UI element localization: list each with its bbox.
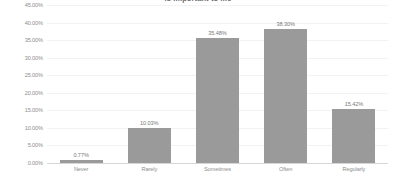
- bar[interactable]: [264, 29, 307, 163]
- y-axis-tick-label: 25.00%: [25, 72, 43, 78]
- bar[interactable]: [60, 160, 103, 163]
- bar[interactable]: [128, 128, 171, 163]
- y-axis-tick-label: 35.00%: [25, 37, 43, 43]
- y-axis-tick-label: 5.00%: [28, 142, 43, 148]
- x-axis-tick-label: Rarely: [115, 166, 183, 172]
- bar-group: 15.42%: [320, 5, 388, 163]
- y-axis-tick-label: 20.00%: [25, 90, 43, 96]
- y-axis-tick-label: 0.00%: [28, 160, 43, 166]
- x-axis-tick-label: Regularly: [320, 166, 388, 172]
- bar[interactable]: [332, 109, 375, 163]
- bar-group: 10.03%: [115, 5, 183, 163]
- y-axis-tick-label: 15.00%: [25, 107, 43, 113]
- bar-value-label: 15.42%: [345, 101, 363, 107]
- bar-group: 38.30%: [252, 5, 320, 163]
- plot-area: 0.00%5.00%10.00%15.00%20.00%25.00%30.00%…: [47, 5, 388, 163]
- y-axis-tick-label: 40.00%: [25, 20, 43, 26]
- bar[interactable]: [196, 38, 239, 163]
- y-axis-tick-label: 10.00%: [25, 125, 43, 131]
- bar-group: 35.48%: [183, 5, 251, 163]
- x-axis-labels: NeverRarelySometimesOftenRegularly: [47, 166, 388, 172]
- bar-value-label: 0.77%: [73, 152, 88, 158]
- bar-series: 0.77%10.03%35.48%38.30%15.42%: [47, 5, 388, 163]
- bar-chart: is important to me 0.00%5.00%10.00%15.00…: [0, 0, 396, 187]
- x-axis-tick-label: Never: [47, 166, 115, 172]
- bar-value-label: 35.48%: [208, 30, 226, 36]
- bar-value-label: 38.30%: [277, 21, 295, 27]
- x-axis-tick-label: Sometimes: [183, 166, 251, 172]
- gridline: [47, 163, 388, 164]
- y-axis-tick-label: 30.00%: [25, 55, 43, 61]
- y-axis-tick-label: 45.00%: [25, 2, 43, 8]
- bar-group: 0.77%: [47, 5, 115, 163]
- x-axis-tick-label: Often: [252, 166, 320, 172]
- bar-value-label: 10.03%: [140, 120, 158, 126]
